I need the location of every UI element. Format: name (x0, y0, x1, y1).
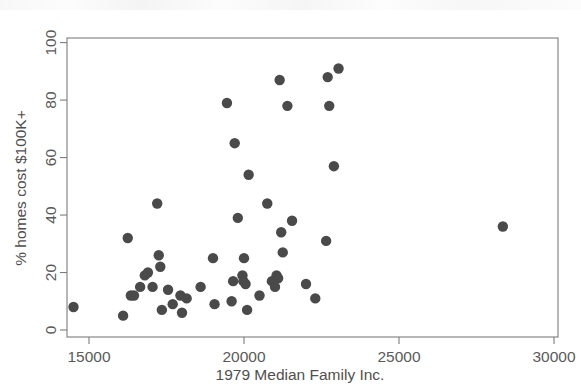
data-point (321, 236, 331, 246)
data-point (239, 253, 249, 263)
data-point (154, 250, 164, 260)
data-point (147, 282, 157, 292)
data-point (168, 299, 178, 309)
chart-canvas: 15000200002500030000 020406080100 1979 M… (0, 0, 581, 388)
data-point (195, 282, 205, 292)
x-tick-label-25000: 25000 (377, 348, 420, 365)
y-axis-ticks (60, 43, 67, 330)
data-point (329, 161, 339, 171)
data-point (155, 262, 165, 272)
data-point (135, 282, 145, 292)
y-tick-label-0: 0 (42, 325, 59, 334)
data-point (118, 310, 128, 320)
scatter-plot-figure: 15000200002500030000 020406080100 1979 M… (0, 0, 581, 388)
data-point (276, 227, 286, 237)
data-point (230, 138, 240, 148)
data-point (262, 198, 272, 208)
y-axis-tick-labels: 020406080100 (42, 29, 59, 334)
data-point (498, 221, 508, 231)
data-point (274, 75, 284, 85)
data-point (301, 279, 311, 289)
data-point (129, 290, 139, 300)
data-point (68, 302, 78, 312)
data-point (242, 305, 252, 315)
y-tick-label-100: 100 (42, 29, 59, 55)
data-point (226, 296, 236, 306)
data-point (143, 267, 153, 277)
data-point (282, 101, 292, 111)
data-point (273, 273, 283, 283)
x-axis-tick-labels: 15000200002500030000 (67, 348, 575, 365)
data-point (152, 198, 162, 208)
data-point-series (68, 63, 508, 321)
data-point (163, 285, 173, 295)
data-point (254, 290, 264, 300)
y-tick-label-80: 80 (42, 91, 59, 109)
data-point (278, 247, 288, 257)
x-axis-ticks (89, 337, 554, 344)
data-point (233, 213, 243, 223)
data-point (177, 308, 187, 318)
data-point (209, 299, 219, 309)
x-tick-label-20000: 20000 (222, 348, 265, 365)
data-point (222, 98, 232, 108)
x-axis-title: 1979 Median Family Inc. (216, 366, 385, 383)
data-point (157, 305, 167, 315)
data-point (287, 216, 297, 226)
data-point (240, 279, 250, 289)
y-axis-title: % homes cost $100K+ (12, 110, 29, 266)
data-point (123, 233, 133, 243)
x-tick-label-15000: 15000 (67, 348, 110, 365)
data-point (228, 276, 238, 286)
data-point (243, 170, 253, 180)
data-point (323, 72, 333, 82)
y-tick-label-20: 20 (42, 264, 59, 282)
data-point (324, 101, 334, 111)
data-point (208, 253, 218, 263)
y-tick-label-60: 60 (42, 149, 59, 167)
y-tick-label-40: 40 (42, 206, 59, 224)
x-tick-label-30000: 30000 (532, 348, 575, 365)
data-point (181, 293, 191, 303)
data-point (333, 63, 343, 73)
plot-frame (67, 38, 558, 337)
data-point (310, 293, 320, 303)
